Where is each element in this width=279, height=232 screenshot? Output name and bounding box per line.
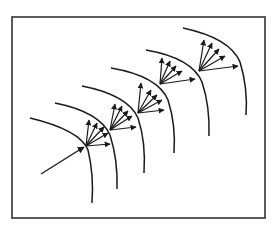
- incoming-arrow-icon: [41, 147, 84, 174]
- fan-4: [160, 58, 195, 84]
- curve-6: [183, 28, 246, 115]
- curve-5: [146, 50, 209, 136]
- fan-1: [86, 120, 110, 146]
- wavefront-diagram: [0, 0, 279, 232]
- arrow-icon: [199, 66, 238, 71]
- arrow-icon: [160, 66, 176, 84]
- fan-5: [199, 40, 238, 71]
